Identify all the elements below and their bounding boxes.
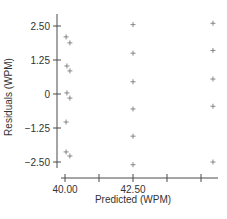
plus-marker-icon <box>131 134 136 139</box>
plus-marker-icon <box>210 160 215 165</box>
plus-marker-icon <box>67 154 72 159</box>
x-axis-title: Predicted (WPM) <box>95 194 171 205</box>
plus-marker-icon <box>64 90 69 95</box>
y-tick-label: 0 <box>44 89 50 100</box>
plus-marker-icon <box>210 77 215 82</box>
plus-marker-icon <box>64 63 69 68</box>
plus-marker-icon <box>67 68 72 73</box>
plus-marker-icon <box>210 104 215 109</box>
plus-marker-icon <box>210 48 215 53</box>
y-tick-label: −1.25 <box>25 123 51 134</box>
y-axis: 2.501.250−1.25−2.50 <box>25 14 61 168</box>
plus-marker-icon <box>64 120 69 125</box>
residual-scatter-plot: 2.501.250−1.25−2.50 40.0042.50 Predicted… <box>0 0 227 219</box>
y-tick-label: 1.25 <box>31 55 51 66</box>
plus-marker-icon <box>210 21 215 26</box>
x-tick-label: 40.00 <box>52 184 77 195</box>
y-tick-label: 2.50 <box>31 21 51 32</box>
plus-marker-icon <box>131 162 136 167</box>
y-axis-title: Residuals (WPM) <box>3 58 14 136</box>
plus-marker-icon <box>67 96 72 101</box>
plus-marker-icon <box>131 79 136 84</box>
plus-marker-icon <box>131 22 136 27</box>
plus-marker-icon <box>131 106 136 111</box>
data-points <box>64 21 216 167</box>
x-axis: 40.0042.50 <box>52 174 218 195</box>
y-tick-label: −2.50 <box>25 157 51 168</box>
plus-marker-icon <box>131 51 136 56</box>
plus-marker-icon <box>64 149 69 154</box>
plus-marker-icon <box>64 34 69 39</box>
plus-marker-icon <box>67 40 72 45</box>
